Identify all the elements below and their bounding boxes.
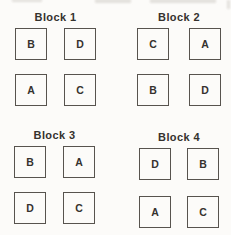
letter-square: A — [139, 196, 171, 228]
letter-square: B — [187, 148, 219, 180]
letter-square: B — [14, 146, 46, 178]
letter-square: D — [14, 192, 46, 224]
block-3: Block 3 B A D C — [14, 129, 95, 224]
block-4: Block 4 D B A C — [139, 131, 219, 228]
letter-square: C — [137, 28, 169, 60]
letter-square: D — [139, 148, 171, 180]
block-2: Block 2 C A B D — [137, 11, 221, 106]
letter-square: C — [63, 192, 95, 224]
letter-square: B — [137, 74, 169, 106]
block-grid: B A D C — [14, 146, 95, 224]
letter-square: A — [63, 146, 95, 178]
letter-square: A — [15, 74, 47, 106]
block-title: Block 1 — [15, 11, 96, 23]
block-title: Block 4 — [139, 131, 219, 143]
letter-square: A — [189, 28, 221, 60]
scan-artifact — [150, 0, 216, 3]
figure-canvas: Block 1 B D A C Block 2 C A B D Block 3 … — [0, 0, 231, 235]
block-grid: B D A C — [15, 28, 96, 106]
letter-square: D — [189, 74, 221, 106]
letter-square: C — [187, 196, 219, 228]
block-title: Block 3 — [14, 129, 95, 141]
letter-square: C — [64, 74, 96, 106]
block-grid: C A B D — [137, 28, 221, 106]
block-title: Block 2 — [137, 11, 221, 23]
block-1: Block 1 B D A C — [15, 11, 96, 106]
scan-artifact — [95, 0, 131, 3]
letter-square: B — [15, 28, 47, 60]
block-grid: D B A C — [139, 148, 219, 228]
letter-square: D — [64, 28, 96, 60]
scan-artifact — [12, 0, 42, 2]
scan-artifact — [227, 0, 230, 9]
